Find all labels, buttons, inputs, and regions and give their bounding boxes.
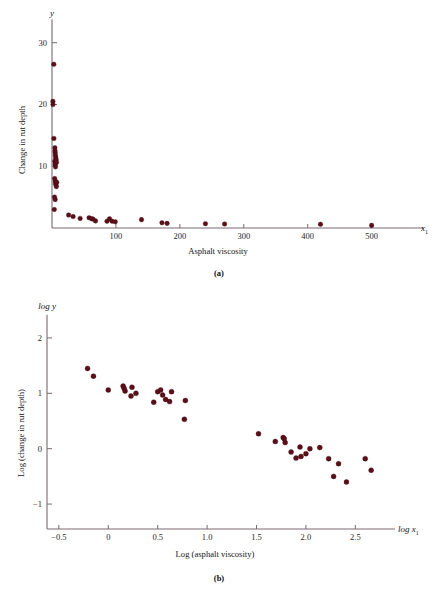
x-tick-label: 200 (173, 231, 186, 241)
data-point (273, 439, 278, 444)
y-tick-label: 2 (38, 333, 42, 343)
data-point (331, 474, 336, 479)
x-tick-label: 0 (106, 532, 110, 542)
panel-b-log-scatter: −0.500.51.01.52.02.5−1012 log y log x1 L… (0, 285, 438, 592)
data-point (54, 160, 59, 165)
data-point (317, 445, 322, 450)
data-point (369, 468, 374, 473)
panel-a-svg: 100200300400500102030 (0, 0, 438, 285)
data-point (53, 197, 58, 202)
data-point (256, 431, 261, 436)
panel-b-data-points (85, 366, 374, 485)
data-point (123, 389, 128, 394)
panel-b-svg: −0.500.51.01.52.02.5−1012 (0, 285, 438, 592)
data-point (52, 136, 57, 141)
data-point (51, 102, 56, 107)
data-point (151, 400, 156, 405)
panel-b-ticks (47, 338, 355, 529)
data-point (318, 222, 323, 227)
data-point (113, 220, 118, 225)
data-point (133, 391, 138, 396)
data-point (344, 479, 349, 484)
x-tick-label: 1.0 (202, 532, 213, 542)
data-point (106, 387, 111, 392)
data-point (54, 180, 59, 185)
data-point (222, 222, 227, 227)
data-point (369, 223, 374, 228)
panel-a-axes (52, 19, 424, 228)
data-point (307, 446, 312, 451)
data-point (298, 445, 303, 450)
data-point (71, 214, 76, 219)
data-point (165, 221, 170, 226)
data-point (139, 217, 144, 222)
data-point (78, 216, 83, 221)
data-point (51, 62, 56, 67)
y-tick-label: 0 (38, 444, 42, 454)
x-tick-label: 0.5 (152, 532, 163, 542)
data-point (298, 454, 303, 459)
y-tick-label: 10 (39, 161, 48, 171)
data-point (91, 374, 96, 379)
x-tick-label: 500 (365, 231, 378, 241)
data-point (336, 461, 341, 466)
panel-b-tick-labels: −0.500.51.01.52.02.5−1012 (33, 333, 361, 542)
y-tick-label: 1 (38, 388, 42, 398)
data-point (303, 451, 308, 456)
panel-a-tick-labels: 100200300400500102030 (39, 38, 379, 241)
data-point (182, 417, 187, 422)
x-tick-label: 2.0 (301, 532, 312, 542)
y-tick-label: 20 (39, 99, 48, 109)
x-tick-label: 400 (301, 231, 314, 241)
data-point (160, 220, 165, 225)
data-point (85, 366, 90, 371)
data-point (158, 387, 163, 392)
data-point (93, 219, 98, 224)
x-tick-label: 300 (237, 231, 250, 241)
panel-b-axes (47, 315, 395, 529)
data-point (294, 456, 299, 461)
data-point (326, 456, 331, 461)
panel-a-data-points (51, 62, 374, 228)
y-tick-label: −1 (33, 499, 42, 509)
data-point (167, 399, 172, 404)
data-point (283, 440, 288, 445)
data-point (363, 456, 368, 461)
data-point (289, 450, 294, 455)
data-point (54, 184, 59, 189)
data-point (129, 394, 134, 399)
figure-scatter-plots: 100200300400500102030 y x1 Change in rut… (0, 0, 438, 592)
data-point (52, 207, 57, 212)
data-point (53, 165, 58, 170)
panel-a-ticks (52, 43, 372, 228)
x-tick-label: −0.5 (51, 532, 66, 542)
data-point (129, 385, 134, 390)
x-tick-label: 2.5 (350, 532, 361, 542)
data-point (160, 392, 165, 397)
panel-a-raw-scatter: 100200300400500102030 y x1 Change in rut… (0, 0, 438, 285)
data-point (66, 213, 71, 218)
y-tick-label: 30 (39, 38, 48, 48)
panel-a-caption: (a) (0, 268, 438, 278)
data-point (203, 221, 208, 226)
data-point (169, 389, 174, 394)
data-point (183, 398, 188, 403)
x-tick-label: 100 (110, 231, 123, 241)
x-tick-label: 1.5 (251, 532, 262, 542)
panel-b-caption: (b) (0, 573, 438, 583)
